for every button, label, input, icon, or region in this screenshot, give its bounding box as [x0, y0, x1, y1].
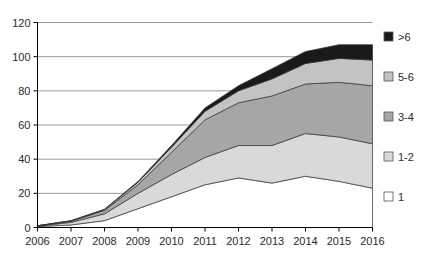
legend-swatch-1: [384, 192, 393, 201]
x-tick-label: 2012: [226, 235, 250, 247]
area-series-group: [38, 45, 373, 228]
legend-swatch-3-4: [384, 112, 393, 121]
x-tick-label: 2006: [25, 235, 49, 247]
x-tick-label: 2016: [360, 235, 384, 247]
legend-swatch--6: [384, 32, 393, 41]
y-tick-label: 60: [18, 119, 30, 131]
chart-canvas: 020406080100120 200620072008200920102011…: [0, 0, 433, 261]
y-axis-ticks: 020406080100120: [12, 17, 37, 234]
x-tick-label: 2008: [92, 235, 116, 247]
y-tick-label: 0: [24, 222, 30, 234]
x-tick-label: 2007: [59, 235, 83, 247]
x-tick-label: 2015: [327, 235, 351, 247]
stacked-area-chart: 020406080100120 200620072008200920102011…: [0, 0, 433, 261]
x-tick-label: 2009: [126, 235, 150, 247]
y-tick-label: 40: [18, 153, 30, 165]
legend-label: 1: [398, 191, 404, 203]
y-tick-label: 120: [12, 17, 30, 29]
legend-swatch-1-2: [384, 152, 393, 161]
x-axis-ticks: 2006200720082009201020112012201320142015…: [25, 228, 384, 247]
legend-label: 3-4: [398, 111, 414, 123]
x-tick-label: 2010: [159, 235, 183, 247]
y-tick-label: 20: [18, 187, 30, 199]
x-tick-label: 2011: [193, 235, 217, 247]
y-tick-label: 100: [12, 51, 30, 63]
legend-label: >6: [398, 31, 411, 43]
legend-swatch-5-6: [384, 72, 393, 81]
chart-legend: >65-63-41-21: [384, 31, 414, 203]
x-tick-label: 2014: [293, 235, 317, 247]
y-tick-label: 80: [18, 85, 30, 97]
legend-label: 1-2: [398, 151, 414, 163]
legend-label: 5-6: [398, 71, 414, 83]
x-tick-label: 2013: [260, 235, 284, 247]
